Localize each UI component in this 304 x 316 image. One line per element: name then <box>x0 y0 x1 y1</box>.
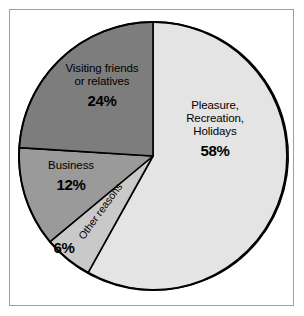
slice-label-visiting-friends: Visiting friends or relatives 24% <box>43 62 161 110</box>
slice-name-pleasure-line2: Recreation, <box>170 112 260 125</box>
slice-name-business: Business <box>28 159 114 172</box>
chart-canvas: Pleasure, Recreation, Holidays 58% Visit… <box>0 0 304 316</box>
slice-label-pleasure: Pleasure, Recreation, Holidays 58% <box>170 99 260 159</box>
slice-value-visiting-friends: 24% <box>43 93 161 110</box>
slice-name-pleasure-line3: Holidays <box>170 125 260 138</box>
slice-label-business: Business 12% <box>28 159 114 194</box>
slice-value-pleasure: 58% <box>170 143 260 160</box>
slice-value-other-reasons: 6% <box>41 239 87 256</box>
slice-name-pleasure-line1: Pleasure, <box>170 99 260 112</box>
slice-value-business: 12% <box>28 177 114 194</box>
slice-name-visiting-line1: Visiting friends <box>43 62 161 75</box>
pie-chart: Pleasure, Recreation, Holidays 58% Visit… <box>0 0 304 316</box>
slice-name-visiting-line2: or relatives <box>43 75 161 88</box>
